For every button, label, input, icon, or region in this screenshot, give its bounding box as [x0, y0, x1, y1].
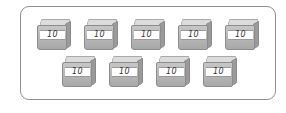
- ten-box: 10: [131, 19, 165, 49]
- ten-box: 10: [84, 19, 118, 49]
- box-label: 10: [65, 67, 90, 77]
- ten-box: 10: [156, 56, 190, 86]
- box-label: 10: [112, 67, 137, 77]
- box-label: 10: [134, 30, 159, 40]
- ten-box: 10: [37, 19, 71, 49]
- box-label: 10: [228, 30, 253, 40]
- box-label: 10: [181, 30, 206, 40]
- box-label: 10: [159, 67, 184, 77]
- box-label: 10: [40, 30, 65, 40]
- ten-box: 10: [178, 19, 212, 49]
- ten-box: 10: [225, 19, 259, 49]
- ten-box: 10: [109, 56, 143, 86]
- box-label: 10: [87, 30, 112, 40]
- box-label: 10: [206, 67, 231, 77]
- ten-box: 10: [62, 56, 96, 86]
- ten-box: 10: [203, 56, 237, 86]
